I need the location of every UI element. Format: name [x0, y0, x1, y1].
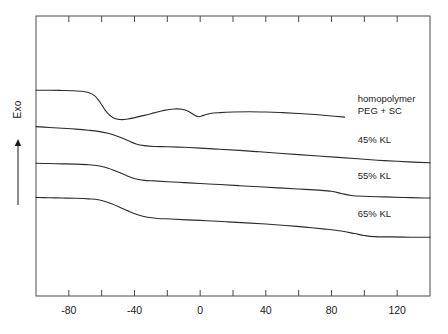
x-axis-tick-label: -40: [113, 304, 157, 316]
x-axis-tick-label: 80: [310, 304, 354, 316]
curve-series-1: [36, 90, 345, 119]
series-label-2: 45% KL: [358, 134, 391, 146]
plot-canvas: [0, 0, 448, 334]
series-label-1: homopolymer PEG + SC: [358, 93, 416, 116]
plot-frame: [36, 16, 430, 296]
x-axis-tick-label: 120: [375, 304, 419, 316]
dsc-thermogram-figure: Exo -80-4004080120homopolymer PEG + SC45…: [0, 0, 448, 334]
x-axis-tick-label: -80: [47, 304, 91, 316]
x-axis-tick-label: 0: [178, 304, 222, 316]
x-axis-tick-label: 40: [244, 304, 288, 316]
exo-arrow-head: [15, 139, 21, 146]
series-label-3: 55% KL: [358, 170, 391, 182]
series-label-4: 65% KL: [358, 208, 391, 220]
